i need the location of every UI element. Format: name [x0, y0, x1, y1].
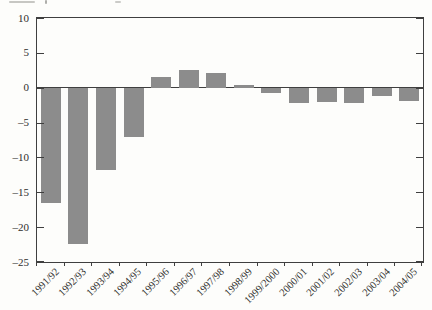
bar-2003-04 — [372, 88, 392, 96]
bar-2004-05 — [399, 88, 419, 101]
x-tick-label: 2004/05 — [387, 266, 419, 298]
x-tick-label: 1991/92 — [29, 266, 61, 298]
y-tick-right — [416, 53, 423, 54]
x-tick — [339, 262, 340, 266]
y-tick-right — [416, 157, 423, 158]
x-tick — [174, 262, 175, 266]
y-tick-left — [37, 261, 44, 262]
x-tick — [201, 262, 202, 266]
y-tick-left — [37, 123, 44, 124]
y-tick-left — [37, 192, 44, 193]
y-tick-label: –20 — [0, 221, 29, 233]
bar-chart: 1050–5–10–15–20–25 1991/921992/931993/94… — [0, 0, 432, 310]
x-tick — [229, 262, 230, 266]
y-tick-label: –15 — [0, 186, 29, 198]
y-tick-right — [416, 88, 423, 89]
x-tick — [367, 262, 368, 266]
x-tick-label: 2002/03 — [332, 266, 364, 298]
x-tick-label: 1996/97 — [167, 266, 199, 298]
x-tick — [284, 262, 285, 266]
x-tick-label: 1995/96 — [139, 266, 171, 298]
y-tick-label: –10 — [0, 151, 29, 163]
y-axis-labels: 1050–5–10–15–20–25 — [0, 17, 31, 262]
y-tick-label: –5 — [0, 116, 29, 128]
zero-axis-line — [37, 87, 423, 88]
x-tick-label: 2000/01 — [277, 266, 309, 298]
y-tick-right — [416, 123, 423, 124]
y-tick-label: 0 — [0, 81, 29, 93]
bar-2001-02 — [317, 88, 337, 102]
x-tick-label: 1993/94 — [84, 266, 116, 298]
x-tick-label: 2003/04 — [360, 266, 392, 298]
y-tick-label: 10 — [0, 12, 29, 24]
y-tick-left — [37, 227, 44, 228]
bar-1993-94 — [96, 88, 116, 170]
x-tick — [394, 262, 395, 266]
x-tick — [421, 262, 422, 266]
x-tick-label: 2001/02 — [304, 266, 336, 298]
x-tick — [312, 262, 313, 266]
x-tick — [257, 262, 258, 266]
y-tick-left — [37, 53, 44, 54]
x-tick — [146, 262, 147, 266]
bar-2000-01 — [289, 88, 309, 103]
y-tick-right — [416, 227, 423, 228]
y-tick-left — [37, 18, 44, 19]
y-tick-label: 5 — [0, 46, 29, 58]
bar-1997-98 — [206, 73, 226, 88]
x-tick — [119, 262, 120, 266]
bar-1996-97 — [179, 70, 199, 87]
scanned-chart-page: 1050–5–10–15–20–25 1991/921992/931993/94… — [0, 0, 432, 310]
x-tick-label: 1994/95 — [111, 266, 143, 298]
y-tick-left — [37, 157, 44, 158]
y-tick-right — [416, 192, 423, 193]
plot-area — [36, 17, 424, 263]
bar-1999-2000 — [261, 88, 281, 93]
x-tick — [91, 262, 92, 266]
bar-1998-99 — [234, 85, 254, 88]
bar-1992-93 — [68, 88, 88, 243]
bar-2002-03 — [344, 88, 364, 103]
y-tick-left — [37, 88, 44, 89]
x-tick-label: 1992/93 — [56, 266, 88, 298]
y-tick-right — [416, 18, 423, 19]
bar-1991-92 — [41, 88, 61, 203]
bar-1994-95 — [124, 88, 144, 137]
x-tick — [36, 262, 37, 266]
x-tick — [64, 262, 65, 266]
bar-1995-96 — [151, 77, 171, 88]
x-axis-labels: 1991/921992/931993/941994/951995/961996/… — [36, 266, 422, 310]
x-tick-label: 1997/98 — [194, 266, 226, 298]
y-tick-label: –25 — [0, 256, 29, 268]
